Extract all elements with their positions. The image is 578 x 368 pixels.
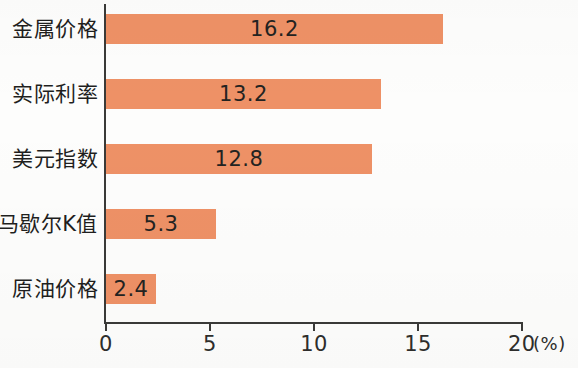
x-axis-tick — [209, 324, 211, 331]
x-axis-tick-label: 5 — [203, 332, 217, 356]
bar-value-label: 5.3 — [144, 209, 179, 239]
bar-value-label: 12.8 — [215, 144, 264, 174]
bar-row: 金属价格 16.2 — [0, 14, 578, 44]
x-axis-tick — [417, 324, 419, 331]
x-axis-unit-label: (%) — [533, 333, 566, 354]
bar-row: 实际利率 13.2 — [0, 79, 578, 109]
bar-row: 美元指数 12.8 — [0, 144, 578, 174]
category-label: 实际利率 — [0, 79, 98, 109]
category-label: 原油价格 — [0, 274, 98, 304]
scan-texture-overlay — [0, 0, 578, 368]
bar-value-label: 13.2 — [219, 79, 268, 109]
x-axis-tick — [313, 324, 315, 331]
bar-value-label: 16.2 — [250, 14, 299, 44]
x-axis-tick-label: 10 — [300, 332, 328, 356]
x-axis-tick-label: 20 — [508, 332, 536, 356]
bar-value-label: 2.4 — [114, 274, 149, 304]
category-label: 金属价格 — [0, 14, 98, 44]
category-label: 马歇尔K值 — [0, 209, 98, 239]
x-axis-tick — [105, 324, 107, 331]
category-label: 美元指数 — [0, 144, 98, 174]
bar-row: 原油价格 2.4 — [0, 274, 578, 304]
bar-row: 马歇尔K值 5.3 — [0, 209, 578, 239]
x-axis-tick-label: 15 — [404, 332, 432, 356]
x-axis-tick-label: 0 — [99, 332, 113, 356]
x-axis-tick — [521, 324, 523, 331]
bar-chart: 金属价格 16.2 实际利率 13.2 美元指数 12.8 马歇尔K值 5.3 … — [0, 0, 578, 368]
